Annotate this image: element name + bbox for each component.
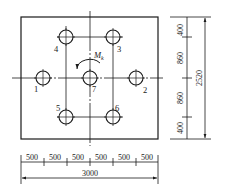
hole-label-4: 4: [54, 44, 59, 54]
horizontal-dimension-labels: 500 500 500 500 500 500 3000: [26, 153, 153, 178]
vertical-dimension-labels: 400 860 860 400 2520: [176, 24, 204, 134]
hole-label-7: 7: [92, 84, 96, 94]
dim-v-total: 2520: [195, 70, 204, 86]
dim-v-400-top: 400: [176, 24, 185, 36]
dim-v-400-bottom: 400: [176, 122, 185, 134]
bolt-hole-4: 4: [54, 28, 75, 54]
dim-h-seg-4: 500: [95, 153, 107, 162]
hole-label-2: 2: [143, 85, 147, 95]
bolt-holes: 1234567: [34, 28, 147, 126]
hole-label-3: 3: [117, 44, 121, 54]
moment-arrow-icon: [77, 59, 100, 69]
bolt-layout-diagram: 1234567 Mk 400 860 860 400 2520 500: [0, 0, 225, 196]
hole-label-1: 1: [34, 84, 38, 94]
dim-h-seg-2: 500: [49, 153, 61, 162]
bolt-hole-5: 5: [56, 103, 75, 126]
dim-h-seg-1: 500: [26, 153, 38, 162]
hole-label-6: 6: [115, 103, 119, 113]
dim-h-seg-5: 500: [118, 153, 130, 162]
hole-label-5: 5: [56, 103, 60, 113]
dim-h-seg-6: 500: [141, 153, 153, 162]
bolt-hole-2: 2: [127, 69, 147, 95]
dim-h-seg-3: 500: [72, 153, 84, 162]
dim-v-860-upper: 860: [176, 52, 185, 64]
moment-label: Mk: [93, 50, 104, 61]
moment-indicator: Mk: [77, 50, 104, 69]
bolt-hole-1: 1: [34, 69, 52, 94]
dim-v-860-lower: 860: [176, 92, 185, 104]
dim-h-total: 3000: [82, 169, 98, 178]
